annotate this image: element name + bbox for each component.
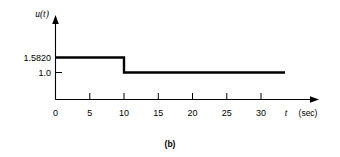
- x-tick-label-1: 5: [87, 108, 92, 118]
- x-axis-name: t: [285, 108, 288, 118]
- figure-caption: (b): [165, 139, 176, 149]
- x-tick-label-6: 30: [256, 108, 266, 118]
- y-tick-label-1.5820: 1.5820: [23, 53, 51, 63]
- x-tick-label-4: 20: [187, 108, 197, 118]
- figure-container: 0 5 10 15 20 25 30 t (sec) u(t) 1.5820 1…: [0, 0, 340, 157]
- x-axis-unit: (sec): [299, 108, 318, 118]
- y-tick-label-1.0: 1.0: [38, 68, 51, 78]
- caption-container: (b): [0, 134, 340, 154]
- y-axis-label: u(t): [35, 9, 49, 20]
- x-tick-label-2: 10: [119, 108, 129, 118]
- x-tick-label-3: 15: [153, 108, 163, 118]
- x-tick-label-5: 25: [222, 108, 232, 118]
- x-tick-label-0: 0: [53, 108, 58, 118]
